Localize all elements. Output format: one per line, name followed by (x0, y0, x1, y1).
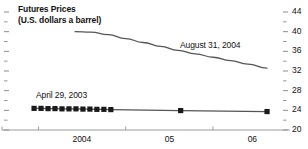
annotation-august-2004: August 31, 2004 (180, 40, 240, 50)
x-axis-tick-label: 2004 (73, 134, 92, 144)
data-marker (31, 106, 36, 111)
x-axis-tick-label: 06 (248, 134, 257, 144)
data-marker (52, 106, 57, 111)
data-marker (45, 106, 50, 111)
futures-prices-chart: Futures Prices (U.S. dollars a barrel) A… (0, 0, 308, 149)
data-marker (101, 107, 106, 112)
y-axis-tick-label: 32 (292, 65, 306, 75)
y-axis-tick-label: 28 (292, 85, 306, 95)
x-axis-tick-label: 05 (165, 134, 174, 144)
y-axis-tick-label: 36 (292, 45, 306, 55)
y-axis-tick-label: 24 (292, 104, 306, 114)
y-axis-tick-label: 20 (292, 124, 306, 134)
data-marker (178, 108, 183, 113)
data-marker (108, 107, 113, 112)
annotation-april-2003: April 29, 2003 (36, 90, 87, 100)
data-marker (66, 106, 71, 111)
data-marker (264, 109, 269, 114)
data-marker (80, 107, 85, 112)
data-marker (94, 107, 99, 112)
y-axis-tick-label: 40 (292, 26, 306, 36)
data-marker (73, 106, 78, 111)
data-marker (87, 107, 92, 112)
y-axis-tick-label: 44 (292, 6, 306, 16)
plot-area (0, 0, 308, 149)
data-marker (59, 106, 64, 111)
data-marker (38, 106, 43, 111)
